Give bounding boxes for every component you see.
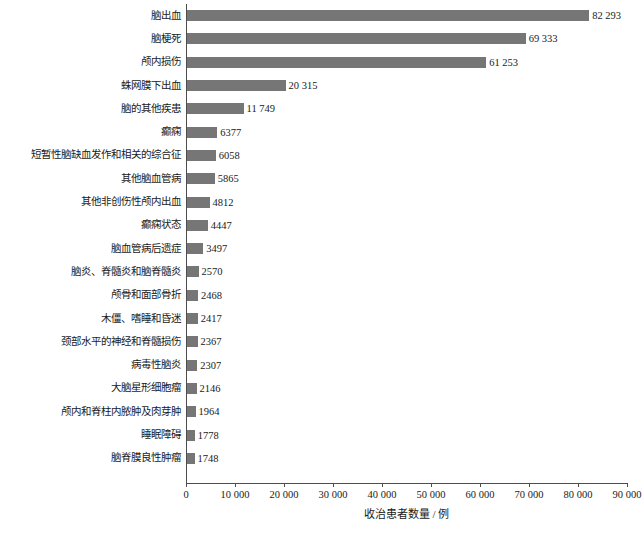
bar [186,406,196,417]
bar-row: 颅内和脊柱内脓肿及肉芽肿1964 [0,400,642,423]
bar-row: 其他脑血管病5865 [0,167,642,190]
x-axis-tick-label: 40 000 [368,489,397,501]
x-axis-tick-label: 10 000 [221,489,250,501]
category-label: 木僵、嗜睡和昏迷 [0,313,181,325]
bar-value-label: 2570 [202,266,223,277]
x-axis-tick-label: 0 [183,489,188,501]
bar [186,10,589,21]
x-axis-tick [480,483,481,487]
bar-value-label: 61 253 [489,57,518,68]
category-label: 脑的其他疾患 [0,103,181,115]
bar-value-label: 2367 [201,336,222,347]
bar [186,290,198,301]
bar-row: 癫痫6377 [0,121,642,144]
x-axis-tick-label: 50 000 [417,489,446,501]
x-axis-tick-label: 80 000 [564,489,593,501]
bar-row: 木僵、嗜睡和昏迷2417 [0,307,642,330]
category-label: 大脑星形细胞瘤 [0,382,181,394]
category-label: 蛛网膜下出血 [0,80,181,92]
bar-with-value: 2307 [186,354,221,377]
horizontal-bar-chart: 脑出血82 293脑梗死69 333颅内损伤61 253蛛网膜下出血20 315… [0,0,642,534]
bar-with-value: 1748 [186,447,219,470]
x-axis-tick [627,483,628,487]
bar-value-label: 5865 [218,173,239,184]
bar-value-label: 82 293 [592,10,621,21]
bar-row: 睡眠障碍1778 [0,423,642,446]
bar-with-value: 4447 [186,214,232,237]
x-axis-tick-label: 20 000 [270,489,299,501]
x-axis-tick [529,483,530,487]
bar-with-value: 3497 [186,237,227,260]
x-axis-line [186,483,627,484]
bar-with-value: 2367 [186,330,222,353]
x-axis-tick [382,483,383,487]
bar [186,197,210,208]
bar-row: 病毒性脑炎2307 [0,354,642,377]
bar [186,360,197,371]
y-axis-line [186,4,187,483]
bar-value-label: 4447 [211,220,232,231]
x-axis-tick [186,483,187,487]
category-label: 颅内损伤 [0,56,181,68]
bar-with-value: 5865 [186,167,239,190]
category-label: 其他脑血管病 [0,173,181,185]
bar-row: 颅骨和面部骨折2468 [0,284,642,307]
bar-value-label: 3497 [206,243,227,254]
category-label: 癫痫 [0,126,181,138]
x-axis-tick [284,483,285,487]
bar-with-value: 20 315 [186,74,317,97]
bar-value-label: 2307 [200,360,221,371]
bar-row: 大脑星形细胞瘤2146 [0,377,642,400]
bar [186,266,199,277]
bar [186,336,198,347]
bar-with-value: 82 293 [186,4,621,27]
bar-value-label: 20 315 [289,80,318,91]
x-axis-tick [333,483,334,487]
bar-value-label: 2468 [201,290,222,301]
bar-value-label: 69 333 [529,33,558,44]
bar [186,127,217,138]
bar-row: 脑梗死69 333 [0,27,642,50]
bar-row: 脑的其他疾患11 749 [0,97,642,120]
category-label: 脑炎、脊髓炎和脑脊髓炎 [0,266,181,278]
bar [186,57,486,68]
bar-value-label: 2417 [201,313,222,324]
bar [186,313,198,324]
bar [186,243,203,254]
category-label: 颈部水平的神经和脊髓损伤 [0,336,181,348]
bar-with-value: 1964 [186,400,220,423]
bar-row: 癫痫状态4447 [0,214,642,237]
bar-row: 蛛网膜下出血20 315 [0,74,642,97]
bar-with-value: 1778 [186,423,219,446]
category-label: 脑脊膜良性肿瘤 [0,452,181,464]
bar-with-value: 6377 [186,121,241,144]
bar-value-label: 11 749 [247,103,276,114]
bar-value-label: 4812 [213,197,234,208]
bar-with-value: 4812 [186,190,234,213]
category-label: 颅骨和面部骨折 [0,289,181,301]
bar-row: 颅内损伤61 253 [0,51,642,74]
category-label: 脑梗死 [0,33,181,45]
bar-row: 颈部水平的神经和脊髓损伤2367 [0,330,642,353]
category-label: 颅内和脊柱内脓肿及肉芽肿 [0,406,181,418]
bar-with-value: 2146 [186,377,221,400]
bar [186,430,195,441]
category-label: 脑出血 [0,10,181,22]
bar [186,103,244,114]
category-label: 短暂性脑缺血发作和相关的综合征 [0,149,181,161]
bar [186,220,208,231]
bar-with-value: 2417 [186,307,222,330]
x-axis-tick [431,483,432,487]
plot-area: 脑出血82 293脑梗死69 333颅内损伤61 253蛛网膜下出血20 315… [0,0,642,534]
bar [186,453,195,464]
bar-with-value: 61 253 [186,51,518,74]
bar-with-value: 69 333 [186,27,558,50]
category-label: 癫痫状态 [0,219,181,231]
bar-value-label: 6377 [220,127,241,138]
bar-with-value: 2468 [186,284,222,307]
bar-value-label: 2146 [200,383,221,394]
bar-with-value: 11 749 [186,97,275,120]
bar-row: 其他非创伤性颅内出血4812 [0,190,642,213]
category-label: 睡眠障碍 [0,429,181,441]
bar-row: 脑血管病后遗症3497 [0,237,642,260]
